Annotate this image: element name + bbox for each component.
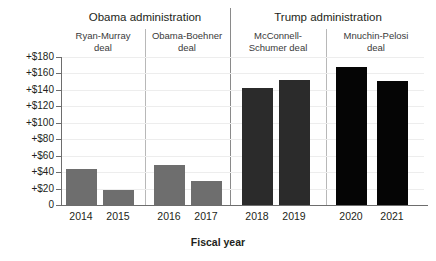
deal-label-line1: Ryan-Murray — [62, 30, 144, 42]
y-tick-mark — [56, 205, 61, 206]
deal-band-mnuchin-pelosi: Mnuchin-Pelosi deal — [328, 30, 424, 56]
bar-chart: Obama administration Trump administratio… — [0, 0, 436, 261]
deal-label-line2: deal — [62, 42, 144, 54]
y-tick-mark — [56, 106, 61, 107]
y-tick-label: 0 — [0, 200, 54, 210]
y-tick-label: +$140 — [0, 85, 54, 95]
deal-band-obama-boehner: Obama-Boehner deal — [146, 30, 228, 56]
y-tick-mark — [56, 73, 61, 74]
deal-label-line2: deal — [328, 42, 424, 54]
bar-2017 — [191, 181, 222, 205]
deal-label-line2: deal — [146, 42, 228, 54]
bar-2018 — [242, 88, 273, 205]
y-tick-label: +$160 — [0, 68, 54, 78]
deal-label-line1: McConnell- — [232, 30, 324, 42]
x-tick-label-2019: 2019 — [272, 210, 316, 222]
deal-band-mcconnell-schumer: McConnell- Schumer deal — [232, 30, 324, 56]
y-tick-mark — [56, 90, 61, 91]
admin-band-obama: Obama administration — [62, 9, 228, 25]
y-tick-mark — [56, 189, 61, 190]
y-tick-mark — [56, 139, 61, 140]
y-tick-label: +$180 — [0, 52, 54, 62]
y-tick-label: +$20 — [0, 184, 54, 194]
x-tick-label-2021: 2021 — [370, 210, 414, 222]
bar-2014 — [66, 169, 97, 205]
x-tick-label-2020: 2020 — [329, 210, 373, 222]
y-tick-mark — [56, 123, 61, 124]
y-tick-label: +$120 — [0, 101, 54, 111]
y-tick-label: +$60 — [0, 151, 54, 161]
bar-2019 — [279, 80, 310, 205]
y-tick-label: +$100 — [0, 118, 54, 128]
deal-label-line1: Mnuchin-Pelosi — [328, 30, 424, 42]
deal-label-line1: Obama-Boehner — [146, 30, 228, 42]
x-axis-line — [56, 205, 428, 206]
x-tick-label-2017: 2017 — [184, 210, 228, 222]
bar-2015 — [103, 190, 134, 205]
bar-2020 — [336, 67, 367, 205]
bar-2021 — [377, 81, 408, 205]
bar-2016 — [154, 165, 185, 205]
deal-label-line2: Schumer deal — [232, 42, 324, 54]
x-tick-label-2015: 2015 — [96, 210, 140, 222]
y-tick-mark — [56, 172, 61, 173]
y-tick-label: +$40 — [0, 167, 54, 177]
y-tick-mark — [56, 156, 61, 157]
admin-band-trump: Trump administration — [232, 9, 424, 25]
deal-band-ryan-murray: Ryan-Murray deal — [62, 30, 144, 56]
y-tick-mark — [56, 57, 61, 58]
plot-area — [62, 57, 424, 205]
x-axis-title: Fiscal year — [0, 236, 436, 248]
y-tick-label: +$80 — [0, 134, 54, 144]
